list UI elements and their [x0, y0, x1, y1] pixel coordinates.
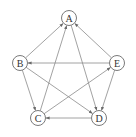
- node-label: B: [17, 58, 24, 69]
- directed-graph: ABCDE: [0, 0, 136, 137]
- edge-b-to-d: [26, 67, 92, 113]
- edge-e-to-a: [75, 23, 112, 57]
- node-label: D: [95, 113, 102, 124]
- nodes-layer: ABCDE: [13, 11, 125, 126]
- node-b: B: [13, 56, 28, 71]
- edge-b-to-c: [22, 70, 35, 110]
- node-a: A: [62, 11, 77, 26]
- node-e: E: [110, 56, 125, 71]
- edges-layer: [22, 23, 114, 118]
- arrow-icon: [71, 25, 97, 110]
- node-label: A: [65, 13, 73, 24]
- arrow-icon: [101, 70, 114, 110]
- edge-c-to-a: [40, 26, 66, 111]
- node-label: C: [35, 113, 42, 124]
- edge-b-to-a: [26, 23, 64, 58]
- arrow-icon: [26, 67, 92, 113]
- edge-a-to-d: [71, 25, 97, 110]
- arrow-icon: [75, 23, 112, 57]
- node-c: C: [31, 111, 46, 126]
- arrow-icon: [44, 68, 110, 114]
- arrow-icon: [22, 70, 35, 110]
- node-label: E: [114, 58, 120, 69]
- arrow-icon: [26, 23, 64, 58]
- edge-e-to-d: [101, 70, 114, 110]
- arrow-icon: [40, 26, 66, 111]
- node-d: D: [92, 111, 107, 126]
- edge-c-to-e: [44, 68, 110, 114]
